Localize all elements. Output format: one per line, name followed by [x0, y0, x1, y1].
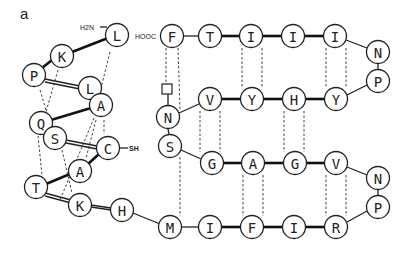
svg-text:K: K — [76, 198, 85, 214]
residue-K: K — [51, 45, 74, 68]
residue-L: L — [106, 24, 129, 47]
residue-C: C — [97, 137, 120, 160]
svg-text:A: A — [249, 156, 258, 172]
svg-text:Y: Y — [248, 92, 257, 108]
residue-H: H — [111, 199, 134, 222]
svg-text:V: V — [332, 156, 341, 172]
svg-text:N: N — [374, 171, 382, 187]
svg-text:T: T — [206, 29, 215, 45]
residue-A: A — [242, 152, 265, 175]
svg-text:G: G — [291, 156, 299, 172]
residue-T: T — [199, 25, 222, 48]
residue-S: S — [159, 135, 182, 158]
residue-G: G — [284, 152, 307, 175]
residue-V: V — [325, 152, 348, 175]
residue-I: I — [240, 25, 263, 48]
residue-N: N — [367, 167, 390, 190]
svg-text:S: S — [51, 131, 59, 147]
svg-text:Q: Q — [37, 116, 45, 132]
svg-text:I: I — [206, 220, 214, 236]
svg-text:I: I — [290, 220, 298, 236]
residue-P: P — [23, 64, 46, 87]
residue-F: F — [161, 25, 184, 48]
residue-I: I — [199, 216, 222, 239]
residue-K: K — [69, 194, 92, 217]
svg-text:A: A — [97, 98, 106, 114]
residue-M: M — [159, 216, 182, 239]
residue-N: N — [157, 106, 180, 129]
svg-text:L: L — [86, 81, 94, 97]
svg-text:K: K — [58, 49, 67, 65]
svg-text:I: I — [247, 29, 255, 45]
n-terminus-label: H2N — [80, 24, 94, 31]
residue-H: H — [283, 88, 306, 111]
residue-R: R — [325, 216, 348, 239]
svg-text:P: P — [30, 68, 38, 84]
residue-T: T — [25, 176, 48, 199]
svg-text:P: P — [374, 200, 382, 216]
svg-text:I: I — [331, 29, 339, 45]
residue-N: N — [367, 41, 390, 64]
peptide-structure-diagram: LKPLAQSCATKHFTIIINPNVYHYSGAGVNPMIFIR H2N… — [0, 0, 412, 258]
residue-A: A — [90, 94, 113, 117]
svg-text:L: L — [113, 28, 121, 44]
sheet-c-terminus-label: HOOC — [135, 33, 156, 40]
svg-text:T: T — [32, 180, 41, 196]
residue-I: I — [283, 216, 306, 239]
residue-V: V — [199, 88, 222, 111]
residue-Y: Y — [241, 88, 264, 111]
svg-text:C: C — [104, 141, 112, 157]
svg-text:H: H — [290, 92, 298, 108]
svg-text:P: P — [374, 74, 382, 90]
residue-G: G — [201, 152, 224, 175]
modification-square — [162, 84, 172, 94]
residue-P: P — [367, 196, 390, 219]
svg-text:N: N — [374, 45, 382, 61]
svg-text:M: M — [166, 220, 174, 236]
svg-text:V: V — [206, 92, 215, 108]
svg-text:F: F — [248, 220, 256, 236]
c-terminus-label: SH — [129, 145, 139, 152]
residue-P: P — [367, 70, 390, 93]
svg-text:G: G — [208, 156, 216, 172]
svg-text:R: R — [332, 220, 341, 236]
residue-Y: Y — [325, 88, 348, 111]
svg-text:S: S — [166, 139, 174, 155]
sheet-hbonds — [166, 48, 346, 216]
residue-S: S — [44, 127, 67, 150]
svg-text:H: H — [118, 203, 126, 219]
svg-text:N: N — [164, 110, 172, 126]
residue-A: A — [69, 160, 92, 183]
residue-I: I — [324, 25, 347, 48]
svg-text:Y: Y — [332, 92, 341, 108]
svg-text:I: I — [289, 29, 297, 45]
svg-text:F: F — [168, 29, 176, 45]
residues: LKPLAQSCATKHFTIIINPNVYHYSGAGVNPMIFIR — [23, 24, 390, 239]
svg-text:A: A — [76, 164, 85, 180]
residue-F: F — [241, 216, 264, 239]
residue-I: I — [282, 25, 305, 48]
